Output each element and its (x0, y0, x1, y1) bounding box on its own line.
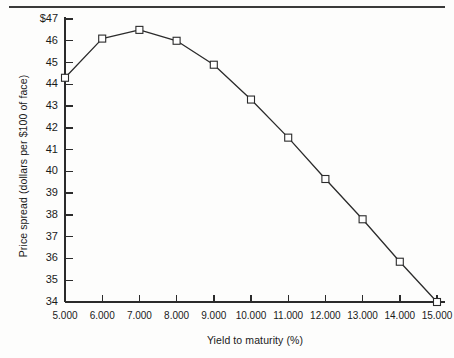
data-point-marker (99, 35, 106, 42)
y-tick-label: 46 (14, 34, 58, 46)
y-tick-label: 36 (14, 251, 58, 263)
y-tick-label: 38 (14, 208, 58, 220)
y-tick-label: 39 (14, 186, 58, 198)
data-point-marker (396, 258, 403, 265)
data-point-marker (248, 96, 255, 103)
y-tick-label: $47 (14, 12, 58, 24)
y-tick-label: 43 (14, 99, 58, 111)
y-tick-label: 45 (14, 56, 58, 68)
data-point-marker (285, 134, 292, 141)
data-line (65, 30, 437, 302)
data-point-marker (136, 26, 143, 33)
y-tick-label: 44 (14, 77, 58, 89)
data-point-marker (62, 74, 69, 81)
y-tick-label: 35 (14, 273, 58, 285)
y-tick-label: 34 (14, 295, 58, 307)
y-tick-label: 37 (14, 230, 58, 242)
data-markers (62, 26, 441, 305)
data-point-marker (210, 61, 217, 68)
axes (65, 17, 445, 302)
data-point-marker (322, 176, 329, 183)
axis-ticks (65, 19, 437, 302)
x-tick-label: 15.000 (409, 310, 454, 321)
plot-area (0, 0, 454, 358)
data-point-marker (359, 216, 366, 223)
data-point-marker (173, 37, 180, 44)
y-tick-label: 40 (14, 164, 58, 176)
y-tick-label: 42 (14, 121, 58, 133)
chart-figure: Price spread (dollars per $100 of face) … (0, 0, 454, 358)
series-polyline (65, 30, 437, 302)
y-tick-label: 41 (14, 143, 58, 155)
data-point-marker (434, 299, 441, 306)
